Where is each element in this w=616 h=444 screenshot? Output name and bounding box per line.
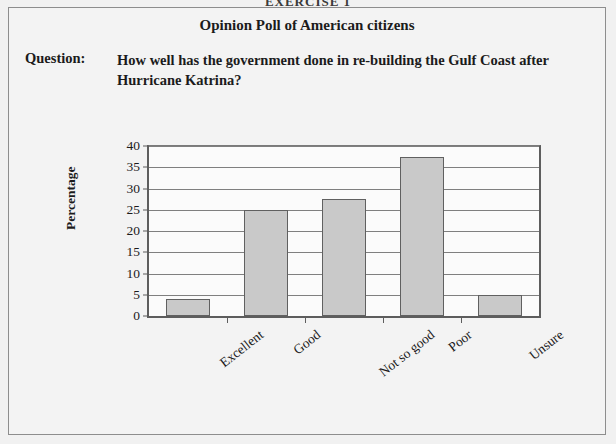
x-tick-label: Excellent	[217, 327, 267, 371]
y-tick-label: 30	[127, 181, 141, 197]
bar-chart: Percentage 0510152025303540ExcellentGood…	[69, 134, 569, 404]
page-title: Opinion Poll of American citizens	[9, 17, 605, 34]
exercise-header: EXERCISE 1	[0, 0, 616, 6]
y-tick-mark	[143, 273, 149, 274]
poll-card: Opinion Poll of American citizens Questi…	[8, 7, 606, 435]
gridline	[149, 167, 539, 168]
y-tick-mark	[143, 188, 149, 189]
y-tick-label: 25	[127, 202, 141, 218]
y-tick-label: 35	[127, 159, 141, 175]
y-tick-mark	[143, 316, 149, 317]
y-tick-mark	[143, 146, 149, 147]
y-tick-mark	[143, 252, 149, 253]
x-tick-label: Unsure	[526, 327, 567, 364]
x-tick-mark	[305, 316, 306, 323]
x-tick-mark	[383, 316, 384, 323]
y-tick-mark	[143, 231, 149, 232]
y-axis-title: Percentage	[63, 167, 79, 230]
plot-area: 0510152025303540ExcellentGoodNot so good…	[147, 145, 541, 318]
x-tick-label: Poor	[445, 327, 475, 355]
screenshot-root: EXERCISE 1 Opinion Poll of American citi…	[0, 0, 616, 444]
x-tick-mark	[461, 316, 462, 323]
y-tick-label: 20	[127, 223, 141, 239]
bar-good	[244, 210, 288, 316]
bar-excellent	[166, 299, 210, 316]
y-tick-mark	[143, 167, 149, 168]
question-label: Question:	[25, 50, 117, 67]
y-tick-mark	[143, 294, 149, 295]
x-tick-label: Not so good	[376, 327, 438, 380]
y-tick-label: 15	[127, 244, 141, 260]
y-tick-label: 5	[133, 287, 140, 303]
y-tick-label: 40	[127, 138, 141, 154]
x-tick-label: Good	[290, 327, 323, 358]
bar-not-so-good	[322, 199, 366, 316]
y-tick-label: 0	[133, 308, 140, 324]
question-row: Question: How well has the government do…	[25, 50, 590, 90]
gridline	[149, 189, 539, 190]
y-tick-mark	[143, 209, 149, 210]
bar-unsure	[478, 295, 522, 316]
bar-poor	[400, 157, 444, 316]
y-tick-label: 10	[127, 266, 141, 282]
question-text: How well has the government done in re-b…	[117, 50, 587, 90]
gridline	[149, 146, 539, 147]
x-tick-mark	[227, 316, 228, 323]
